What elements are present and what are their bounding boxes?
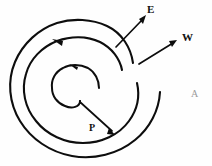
label-e: E (147, 4, 154, 15)
label-w: W (182, 32, 193, 43)
w-callout-leader-line (139, 43, 173, 64)
label-p: P (89, 123, 95, 133)
e-callout-leader-line (116, 19, 143, 47)
p-callout-leader-line (80, 102, 112, 131)
w-callout-arrowhead-icon (169, 40, 177, 47)
spiral-diagram-figure: E W P A (0, 0, 212, 166)
spiral-inner-arm (52, 65, 99, 107)
spiral-middle-arm (24, 37, 138, 143)
label-a: A (191, 89, 198, 99)
diagram-canvas (0, 0, 212, 166)
